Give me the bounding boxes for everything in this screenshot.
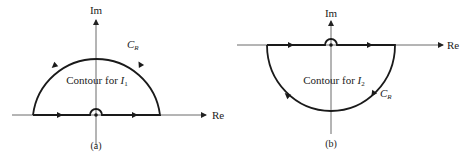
direction-arrow-icon (288, 42, 294, 48)
direction-arrow-icon (136, 60, 144, 68)
direction-arrow-icon (367, 42, 373, 48)
im-axis-label-b: Im (325, 7, 338, 19)
caption-b: (b) (325, 138, 337, 150)
re-axis-label-b: Re (447, 39, 459, 51)
origin-point-b (329, 43, 333, 47)
contour-text-a: Contour for I1 (66, 74, 128, 88)
contour-diagram: Im Re CR Contour for I1 (a) Im Re (0, 0, 475, 157)
direction-arrow-icon (50, 62, 58, 70)
arc-label-sub: R (386, 93, 392, 101)
arc-label-b: CR (380, 87, 392, 101)
im-axis-label-a: Im (90, 4, 103, 16)
contour-text: Contour for (66, 74, 120, 86)
integral-subscript: 1 (124, 80, 128, 88)
direction-arrow-icon (57, 112, 63, 118)
direction-arrow-icon (132, 112, 138, 118)
arc-label-a: CR (127, 38, 139, 52)
integral-subscript: 2 (361, 80, 365, 88)
caption-a: (a) (90, 140, 101, 152)
panel-a: Im Re CR Contour for I1 (a) (12, 4, 224, 152)
origin-point-a (94, 113, 98, 117)
re-axis-label-a: Re (212, 109, 224, 121)
contour-text: Contour for (303, 74, 357, 86)
contour-text-b: Contour for I2 (303, 74, 365, 88)
panel-b: Im Re CR Contour for I2 (b) (237, 7, 459, 150)
arc-label-sub: R (133, 44, 139, 52)
